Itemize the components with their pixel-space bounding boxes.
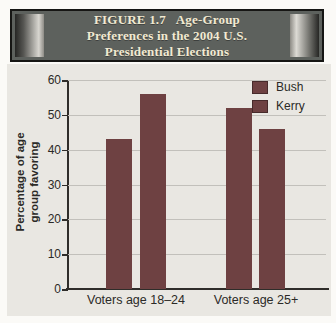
figure-title-banner: FIGURE 1.7 Age-Group Preferences in the … <box>10 9 324 62</box>
bar-kerry-group0 <box>140 94 166 289</box>
figure-title: FIGURE 1.7 Age-Group Preferences in the … <box>87 12 247 60</box>
bar-bush-group0 <box>106 139 132 289</box>
y-tick-mark-10 <box>62 254 68 256</box>
y-tick-mark-0 <box>62 289 68 291</box>
y-tick-label-40: 40 <box>25 143 61 157</box>
y-tick-label-30: 30 <box>25 178 61 192</box>
y-tick-mark-30 <box>62 185 68 187</box>
y-tick-label-60: 60 <box>25 73 61 87</box>
kerry-legend-swatch <box>252 100 268 113</box>
bush-legend-label: Bush <box>276 80 303 94</box>
banner-metal-cap-left <box>15 14 44 57</box>
y-tick-mark-60 <box>62 80 68 82</box>
legend: Bush Kerry <box>252 78 305 116</box>
legend-item-kerry: Kerry <box>252 97 305 115</box>
chart-panel: Percentage of age group favoring Voters … <box>7 64 331 316</box>
bar-kerry-group1 <box>259 129 285 289</box>
bush-legend-swatch <box>252 81 268 94</box>
y-tick-label-10: 10 <box>25 247 61 261</box>
bar-bush-group1 <box>226 108 252 289</box>
legend-item-bush: Bush <box>252 78 305 96</box>
y-tick-label-50: 50 <box>25 108 61 122</box>
y-tick-label-0: 0 <box>25 282 61 296</box>
x-category-label-25plus: Voters age 25+ <box>214 293 298 307</box>
y-tick-mark-50 <box>62 115 68 117</box>
y-tick-mark-20 <box>62 219 68 221</box>
x-category-label-18-24: Voters age 18–24 <box>87 293 185 307</box>
y-tick-mark-40 <box>62 150 68 152</box>
y-tick-label-20: 20 <box>25 212 61 226</box>
figure-page: FIGURE 1.7 Age-Group Preferences in the … <box>0 0 336 323</box>
banner-metal-cap-right <box>290 14 319 57</box>
kerry-legend-label: Kerry <box>276 99 305 113</box>
